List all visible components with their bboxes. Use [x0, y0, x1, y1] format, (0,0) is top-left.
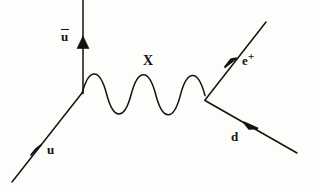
feynman-diagram: u X e+ d u	[0, 0, 313, 190]
positron-line	[205, 22, 266, 100]
up-quark-stroke	[12, 93, 82, 182]
antiup-quark-arrowhead-icon	[77, 36, 89, 49]
up-quark-line	[12, 93, 82, 182]
x-boson-stroke	[82, 74, 205, 115]
antiup-label-text: u	[61, 29, 68, 44]
label-down-quark: d	[231, 130, 238, 143]
label-antiup-quark: u	[61, 29, 68, 43]
label-up-quark: u	[47, 143, 54, 156]
x-boson-wavy-propagator	[82, 74, 205, 115]
up-quark-arrowhead-icon	[31, 145, 42, 156]
antiup-overline-glyph: u	[61, 29, 68, 43]
down-quark-arrowhead-icon	[244, 122, 259, 129]
positron-label-superscript: +	[248, 50, 254, 62]
down-quark-line	[205, 101, 297, 154]
label-positron: e+	[242, 54, 254, 67]
feynman-diagram-canvas	[0, 0, 313, 190]
label-x-boson: X	[143, 54, 153, 68]
positron-stroke	[205, 22, 266, 100]
